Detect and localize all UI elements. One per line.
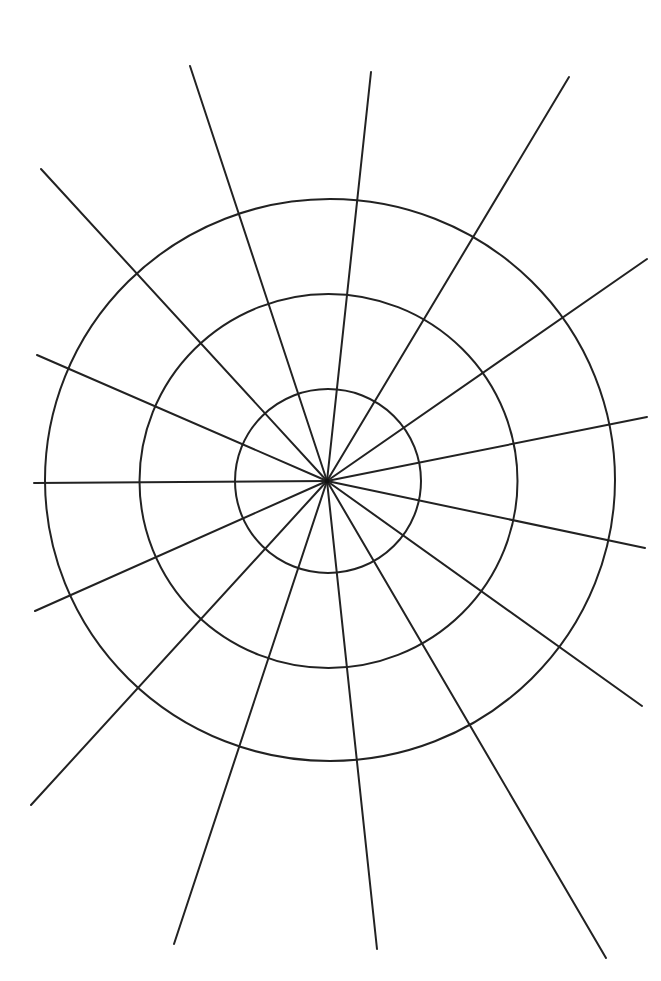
spoke-15 (327, 481, 606, 958)
spoke-4 (41, 169, 327, 481)
center-hub (325, 479, 330, 484)
spoke-8 (34, 481, 327, 483)
spoke-14 (327, 481, 377, 949)
spoke-7 (327, 417, 647, 481)
spoke-5 (327, 259, 647, 481)
polar-grid-diagram (0, 0, 661, 981)
spoke-6 (37, 355, 327, 481)
spoke-13 (174, 481, 327, 944)
spoke-10 (35, 481, 327, 611)
